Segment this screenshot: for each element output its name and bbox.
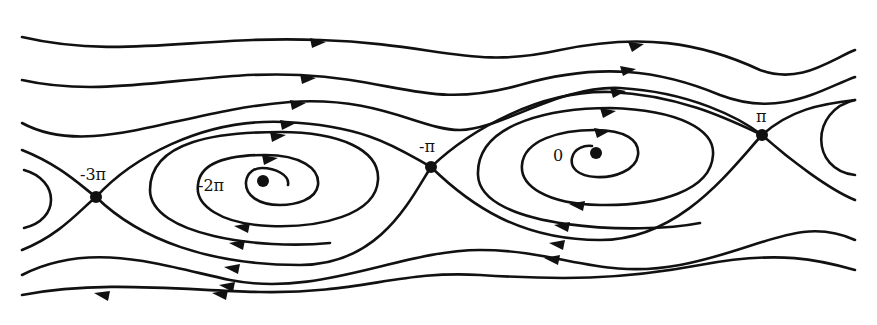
spiral-0 (478, 108, 713, 228)
stable-point-minus-2pi (257, 175, 269, 187)
spiral-minus-2pi (150, 132, 378, 245)
trajectory-top-2 (22, 71, 855, 103)
separatrix-lower (22, 135, 855, 265)
trajectory-right-loop (821, 100, 855, 175)
label-minus-3pi: -3π (80, 165, 106, 184)
phase-portrait: -3π -2π -π 0 π (0, 0, 877, 325)
saddle-point-minus-3pi (90, 191, 102, 203)
trajectory-top-1 (22, 37, 855, 75)
separatrix-upper (22, 92, 762, 197)
label-pi: π (756, 107, 767, 126)
label-minus-2pi: -2π (198, 176, 224, 195)
saddle-point-minus-pi (425, 161, 437, 173)
label-0: 0 (553, 146, 563, 165)
flow-arrows (94, 38, 644, 301)
saddle-point-pi (756, 129, 768, 141)
trajectory-left-loop (24, 170, 51, 228)
label-minus-pi: -π (419, 137, 435, 156)
stable-point-0 (590, 147, 602, 159)
